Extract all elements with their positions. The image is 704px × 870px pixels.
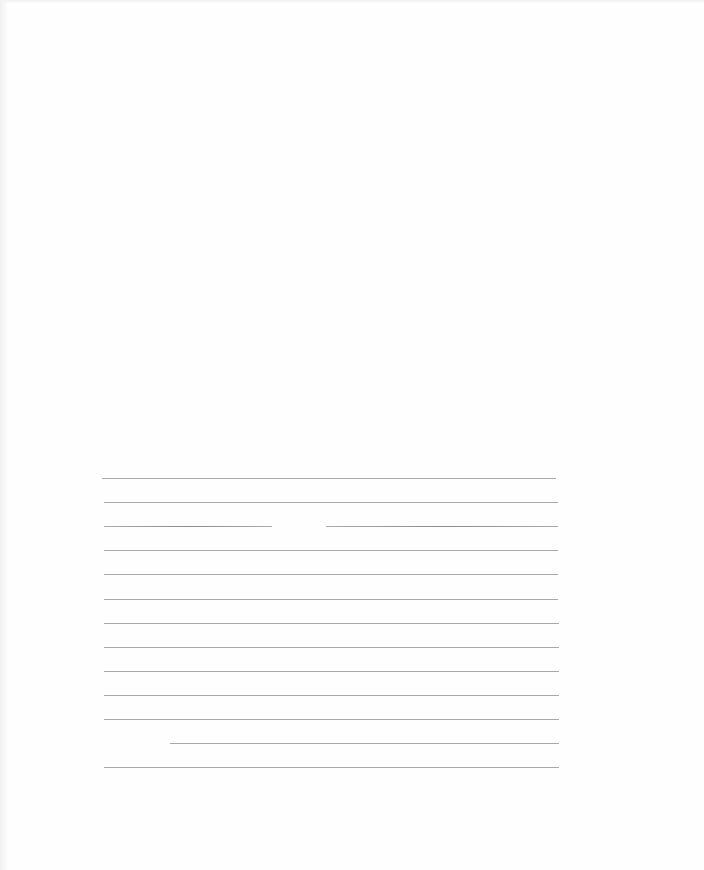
ruled-line bbox=[326, 526, 558, 527]
ruled-line bbox=[170, 743, 559, 744]
ruled-line bbox=[104, 526, 272, 527]
ruled-lines-area bbox=[0, 0, 704, 870]
ruled-line bbox=[104, 767, 559, 768]
ruled-line bbox=[104, 550, 558, 551]
ruled-line bbox=[104, 623, 559, 624]
ruled-line bbox=[104, 695, 559, 696]
ruled-line bbox=[104, 671, 559, 672]
ruled-line bbox=[104, 719, 559, 720]
ruled-line bbox=[104, 647, 559, 648]
ruled-line bbox=[104, 574, 558, 575]
blank-ruled-page bbox=[0, 0, 704, 870]
ruled-line bbox=[104, 599, 558, 600]
ruled-line bbox=[102, 478, 556, 479]
ruled-line bbox=[104, 502, 558, 503]
